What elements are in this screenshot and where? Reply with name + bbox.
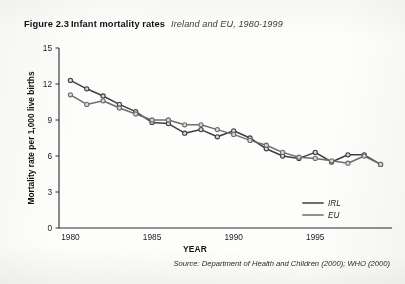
series-eu (68, 93, 382, 167)
x-axis-title: YEAR (183, 244, 207, 254)
x-tick-labels: 1980198519901995 (61, 232, 325, 242)
y-axis-title: Mortality rate per 1,000 live births (26, 71, 36, 204)
data-point (313, 156, 317, 160)
data-point (166, 118, 170, 122)
figure-container: Figure 2.3Infant mortality ratesIreland … (0, 0, 405, 284)
data-point (330, 159, 334, 163)
data-point (313, 150, 317, 154)
data-point (215, 128, 219, 132)
data-point (199, 123, 203, 127)
data-point (215, 135, 219, 139)
data-point (264, 143, 268, 147)
y-tick-label: 3 (47, 187, 52, 197)
data-point (134, 112, 138, 116)
data-point (378, 162, 382, 166)
data-point (101, 99, 105, 103)
data-point (68, 78, 72, 82)
y-tick-label: 0 (47, 223, 52, 233)
line-chart: 03691215 1980198519901995 IRLEU YEAR Mor… (0, 0, 405, 284)
y-tick-labels: 03691215 (43, 43, 53, 233)
x-tick-label: 1985 (143, 232, 162, 242)
legend-label-eu: EU (328, 211, 339, 220)
data-point (150, 118, 154, 122)
data-point (346, 153, 350, 157)
data-point (281, 150, 285, 154)
legend-label-irl: IRL (328, 199, 341, 208)
data-point (199, 128, 203, 132)
data-point (297, 155, 301, 159)
source-note: Source: Department of Health and Childre… (173, 259, 390, 268)
series-line (70, 80, 380, 164)
data-point (101, 94, 105, 98)
chart-legend: IRLEU (303, 199, 341, 220)
x-tick-label: 1995 (306, 232, 325, 242)
series-irl (68, 78, 382, 166)
data-point (346, 161, 350, 165)
data-point (183, 131, 187, 135)
data-point (232, 132, 236, 136)
y-tick-label: 6 (47, 151, 52, 161)
y-tick-label: 15 (43, 43, 53, 53)
y-tick-label: 12 (43, 79, 53, 89)
series-layer (68, 78, 382, 166)
data-point (117, 106, 121, 110)
y-tick-label: 9 (47, 115, 52, 125)
data-point (85, 87, 89, 91)
x-tick-label: 1990 (224, 232, 243, 242)
data-point (183, 123, 187, 127)
plot-area: 03691215 1980198519901995 IRLEU YEAR Mor… (0, 0, 405, 284)
data-point (248, 138, 252, 142)
data-point (85, 102, 89, 106)
x-tick-label: 1980 (61, 232, 80, 242)
data-point (362, 154, 366, 158)
data-point (68, 93, 72, 97)
